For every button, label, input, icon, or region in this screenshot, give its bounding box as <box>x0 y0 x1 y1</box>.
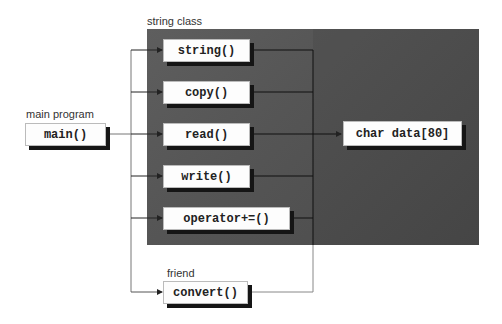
string-constructor-box: string() <box>163 39 250 62</box>
main-program-label: main program <box>26 108 94 120</box>
main-function-box: main() <box>25 123 106 146</box>
convert-friend-box: convert() <box>163 281 248 304</box>
friend-label: friend <box>167 267 195 279</box>
string-class-label: string class <box>147 15 202 27</box>
operator-plus-equals-box: operator+=() <box>163 207 290 230</box>
connector-lines <box>0 0 502 324</box>
copy-method-box: copy() <box>163 81 250 104</box>
read-method-box: read() <box>163 123 250 146</box>
write-method-box: write() <box>163 165 250 188</box>
char-data-member-box: char data[80] <box>343 121 462 146</box>
